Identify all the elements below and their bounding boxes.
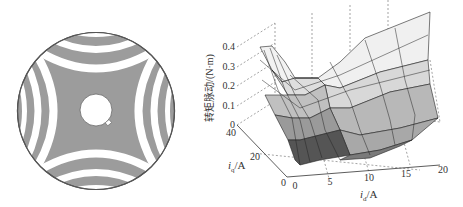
z-axis-label: 转矩脉动/(N·m) [203,54,216,122]
rotor-lamination-image [0,0,200,207]
x-tick: 10 [364,172,374,183]
y-tick: 40 [226,127,236,138]
y-axis-label: iq/A [228,159,246,174]
x-axis-label: id/A [360,188,378,203]
z-tick: 0.3 [223,61,236,72]
z-tick: 0.1 [223,100,236,111]
x-tick: 15 [401,168,411,179]
y-tick: 0 [281,177,286,188]
x-tick: 5 [328,176,333,187]
y-tick: 20 [250,151,260,162]
x-tick: 20 [438,164,448,175]
x-tick: 0 [293,180,298,191]
z-tick: 0.2 [223,80,236,91]
z-tick: 0.4 [223,41,236,52]
torque-ripple-surface-chart: 0.4 0.3 0.2 0.1 0 转矩脉动/(N·m) 40 20 0 iq/… [200,0,463,207]
